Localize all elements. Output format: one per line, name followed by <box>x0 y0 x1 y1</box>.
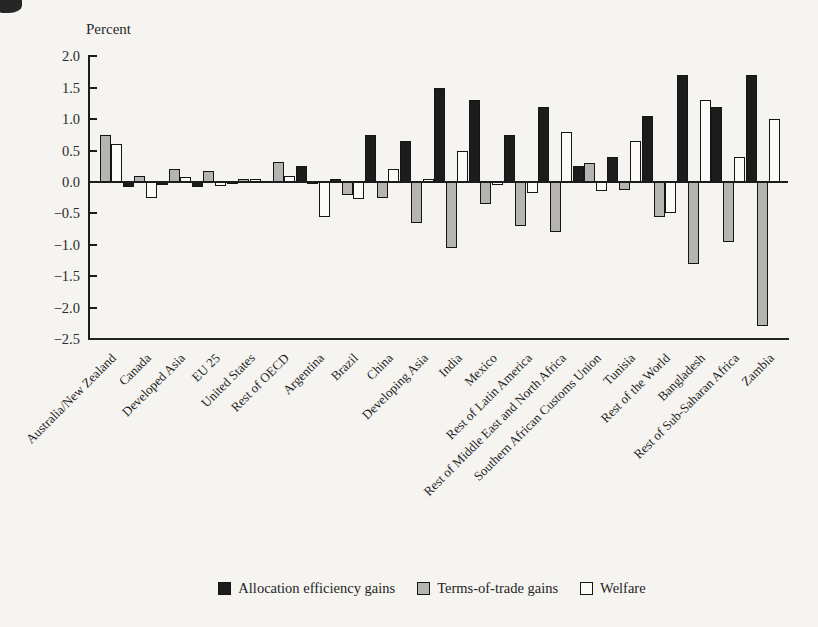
bar-welfare-brazil <box>353 182 364 199</box>
y-tick-label-0.0: 0.0 <box>28 175 80 189</box>
legend-swatch-welfare <box>580 582 593 595</box>
y-tick-mark-−0.5 <box>90 212 97 214</box>
y-tick-mark-−1.5 <box>90 275 97 277</box>
bar-allocation-efficiency-gains-rest-of-latin-america <box>504 135 515 182</box>
y-tick-mark-1.5 <box>90 87 97 89</box>
bar-terms-of-trade-gains-developing-asia <box>411 182 422 223</box>
bar-terms-of-trade-gains-rest-of-latin-america <box>515 182 526 226</box>
legend-item-welfare: Welfare <box>580 580 646 597</box>
legend-items: Allocation efficiency gainsTerms-of-trad… <box>218 580 645 597</box>
bar-allocation-efficiency-gains-india <box>434 88 445 182</box>
bar-welfare-canada <box>146 182 157 198</box>
figure-canvas: Percent 2.01.51.00.50.0−0.5−1.0−1.5−2.0−… <box>0 0 818 627</box>
legend-item-terms-of-trade-gains: Terms-of-trade gains <box>417 580 558 597</box>
bar-allocation-efficiency-gains-bangladesh <box>677 75 688 182</box>
bar-terms-of-trade-gains-india <box>446 182 457 248</box>
bar-terms-of-trade-gains-zambia <box>757 182 768 326</box>
y-tick-mark-−1.0 <box>90 244 97 246</box>
y-tick-label-1.5: 1.5 <box>28 81 80 95</box>
bar-allocation-efficiency-gains-china <box>365 135 376 182</box>
y-tick-label-−1.0: −1.0 <box>28 238 80 252</box>
bar-terms-of-trade-gains-australia-new-zealand <box>100 135 111 182</box>
legend-label-welfare: Welfare <box>600 580 646 597</box>
bar-terms-of-trade-gains-rest-of-the-world <box>654 182 665 217</box>
bar-welfare-rest-of-latin-america <box>527 182 538 193</box>
bar-allocation-efficiency-gains-developing-asia <box>400 141 411 182</box>
bar-terms-of-trade-gains-rest-of-oecd <box>273 162 284 182</box>
y-axis-unit-label: Percent <box>86 21 131 38</box>
bar-welfare-argentina <box>319 182 330 217</box>
bar-welfare-australia-new-zealand <box>111 144 122 182</box>
y-tick-mark-1.0 <box>90 118 97 120</box>
scan-artifact <box>0 0 22 13</box>
legend-item-allocation-efficiency-gains: Allocation efficiency gains <box>218 580 395 597</box>
zero-baseline <box>88 181 788 183</box>
y-tick-mark-0.5 <box>90 150 97 152</box>
y-axis-line <box>88 55 90 339</box>
bar-allocation-efficiency-gains-zambia <box>746 75 757 182</box>
bar-welfare-bangladesh <box>700 100 711 182</box>
bar-allocation-efficiency-gains-rest-of-the-world <box>642 116 653 182</box>
x-axis-bottom-line <box>88 338 789 340</box>
y-tick-mark-−2.0 <box>90 307 97 309</box>
bar-allocation-efficiency-gains-rest-of-sub-saharan-africa <box>711 107 722 182</box>
legend-swatch-terms-of-trade-gains <box>417 582 430 595</box>
legend: Allocation efficiency gainsTerms-of-trad… <box>0 580 818 597</box>
bar-allocation-efficiency-gains-tunisia <box>607 157 618 182</box>
y-tick-label-1.0: 1.0 <box>28 112 80 126</box>
bar-allocation-efficiency-gains-mexico <box>469 100 480 182</box>
legend-label-allocation-efficiency-gains: Allocation efficiency gains <box>238 580 395 597</box>
y-tick-label-−0.5: −0.5 <box>28 206 80 220</box>
bar-terms-of-trade-gains-rest-of-middle-east-and-north-africa <box>550 182 561 232</box>
bar-terms-of-trade-gains-china <box>377 182 388 198</box>
y-tick-label-2.0: 2.0 <box>28 49 80 63</box>
bar-welfare-rest-of-middle-east-and-north-africa <box>561 132 572 182</box>
y-tick-label-0.5: 0.5 <box>28 144 80 158</box>
bar-welfare-southern-african-customs-union <box>596 182 607 191</box>
bar-welfare-rest-of-sub-saharan-africa <box>734 157 745 182</box>
bar-allocation-efficiency-gains-southern-african-customs-union <box>573 166 584 182</box>
legend-swatch-allocation-efficiency-gains <box>218 582 231 595</box>
y-tick-label-−1.5: −1.5 <box>28 269 80 283</box>
y-tick-mark-2.0 <box>90 55 97 57</box>
bar-terms-of-trade-gains-southern-african-customs-union <box>584 163 595 182</box>
bar-welfare-rest-of-the-world <box>665 182 676 213</box>
bar-terms-of-trade-gains-bangladesh <box>688 182 699 264</box>
bar-allocation-efficiency-gains-rest-of-middle-east-and-north-africa <box>538 107 549 182</box>
bar-welfare-zambia <box>769 119 780 182</box>
y-tick-label-−2.5: −2.5 <box>28 332 80 346</box>
bar-terms-of-trade-gains-rest-of-sub-saharan-africa <box>723 182 734 242</box>
legend-label-terms-of-trade-gains: Terms-of-trade gains <box>437 580 558 597</box>
bar-welfare-india <box>457 151 468 182</box>
y-tick-label-−2.0: −2.0 <box>28 301 80 315</box>
bar-allocation-efficiency-gains-argentina <box>296 166 307 182</box>
bar-terms-of-trade-gains-mexico <box>480 182 491 204</box>
bar-terms-of-trade-gains-brazil <box>342 182 353 195</box>
bar-welfare-tunisia <box>630 141 641 182</box>
